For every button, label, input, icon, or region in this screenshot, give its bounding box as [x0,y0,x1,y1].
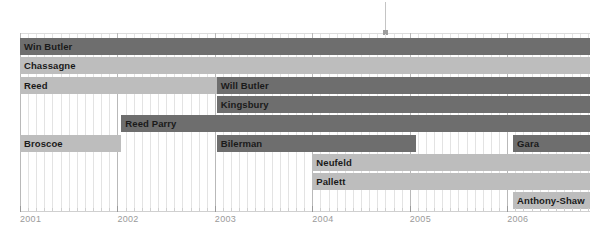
gantt-bar-label: Reed [20,77,48,94]
x-axis-tick-minor [93,208,94,212]
x-axis-tick-minor [126,208,127,212]
gantt-bar-label: Win Butler [20,38,72,55]
gantt-bar[interactable] [20,77,217,94]
x-axis-tick-minor [191,208,192,212]
gantt-bar-label: Will Butler [217,77,269,94]
x-axis-tick-minor [475,208,476,212]
x-axis-tick-minor [402,208,403,212]
gantt-bar[interactable] [217,77,590,94]
x-axis-tick-minor [280,208,281,212]
x-axis-tick-minor [174,208,175,212]
x-axis-tick-minor [515,208,516,212]
x-axis-tick-minor [272,208,273,212]
x-axis-tick-minor [385,208,386,212]
x-axis-tick-minor [458,208,459,212]
x-axis-tick [20,206,21,212]
x-axis-tick-minor [329,208,330,212]
x-axis-tick-minor [304,208,305,212]
gantt-bar-label: Neufeld [312,154,352,171]
gantt-bar[interactable] [20,57,590,74]
x-axis-tick-minor [426,208,427,212]
x-axis-tick [215,206,216,212]
gantt-bar-label: Gara [513,135,539,152]
x-axis-tick-minor [52,208,53,212]
plot-area: Win ButlerChassagneReedWill ButlerKingsb… [20,0,590,212]
gantt-bar-label: Reed Parry [121,115,176,132]
x-axis-tick-minor [44,208,45,212]
x-axis-tick-minor [182,208,183,212]
x-axis-tick-minor [109,208,110,212]
gantt-chart: Win ButlerChassagneReedWill ButlerKingsb… [0,0,599,233]
x-axis-tick-minor [418,208,419,212]
x-axis-tick [410,206,411,212]
gantt-row: Win Butler [20,38,590,55]
gantt-row: Pallett [20,173,590,190]
x-axis-tick-minor [255,208,256,212]
gantt-bar-label: Kingsbury [217,96,269,113]
x-axis-tick-label: 2003 [215,214,236,224]
x-axis-tick-minor [199,208,200,212]
gantt-bar[interactable] [217,96,590,113]
gantt-bar[interactable] [312,173,590,190]
gantt-bar-label: Pallett [312,173,345,190]
x-axis-tick-minor [499,208,500,212]
x-axis-tick-minor [580,208,581,212]
gantt-row: Reed Parry [20,115,590,132]
x-axis-tick-minor [483,208,484,212]
x-axis-tick-minor [101,208,102,212]
x-axis-tick-minor [467,208,468,212]
x-axis-tick-minor [345,208,346,212]
x-axis-tick-minor [264,208,265,212]
x-axis-tick-minor [231,208,232,212]
x-axis-tick-minor [77,208,78,212]
x-axis-tick-label: 2006 [507,214,528,224]
x-axis-tick-minor [239,208,240,212]
x-axis-tick-minor [572,208,573,212]
gantt-row: Chassagne [20,57,590,74]
gantt-bar-label: Chassagne [20,57,76,74]
gantt-row: ReedWill Butler [20,77,590,94]
x-axis-tick-minor [288,208,289,212]
x-axis-tick-minor [588,208,589,212]
gantt-bar[interactable] [121,115,590,132]
x-axis-tick-minor [523,208,524,212]
x-axis-tick-minor [207,208,208,212]
x-axis-tick-minor [36,208,37,212]
x-axis-tick-minor [353,208,354,212]
x-axis-tick [117,206,118,212]
x-axis-tick-minor [158,208,159,212]
x-axis-tick-minor [166,208,167,212]
x-axis-tick-minor [361,208,362,212]
x-axis-tick-minor [296,208,297,212]
gantt-row: Anthony-Shaw [20,192,590,209]
gantt-bar[interactable] [312,154,590,171]
x-axis-tick-minor [85,208,86,212]
gantt-row: Neufeld [20,154,590,171]
x-axis-tick-minor [150,208,151,212]
x-axis-tick-minor [69,208,70,212]
x-axis-tick-minor [394,208,395,212]
x-axis-tick-minor [442,208,443,212]
x-axis-tick-minor [548,208,549,212]
x-axis-tick [312,206,313,212]
gantt-row: Kingsbury [20,96,590,113]
x-axis-tick-label: 2001 [20,214,41,224]
x-axis-tick-minor [491,208,492,212]
gantt-bar-label: Broscoe [20,135,63,152]
x-axis-tick-minor [223,208,224,212]
x-axis-tick-label: 2005 [410,214,431,224]
x-axis-tick-minor [564,208,565,212]
x-axis-tick-minor [532,208,533,212]
x-axis-tick-minor [369,208,370,212]
x-axis-tick-minor [337,208,338,212]
x-axis-tick-minor [434,208,435,212]
x-axis-tick-label: 2002 [117,214,138,224]
x-axis-tick-minor [28,208,29,212]
x-axis-tick-minor [61,208,62,212]
x-axis-tick-minor [134,208,135,212]
x-axis-tick-minor [377,208,378,212]
gantt-bar-label: Anthony-Shaw [513,192,585,209]
gantt-row: BroscoeBilermanGara [20,135,590,152]
gantt-bar[interactable] [20,38,590,55]
x-axis-tick-minor [320,208,321,212]
